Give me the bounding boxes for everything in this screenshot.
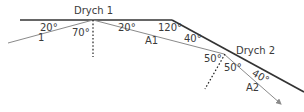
angle-normal-m2-out: 50° bbox=[224, 62, 242, 73]
angle-mirror-bend: 120° bbox=[158, 22, 182, 33]
angle-incident-m1: 20° bbox=[40, 22, 58, 33]
ray-1-label: 1 bbox=[38, 32, 44, 43]
ray-a1-label: A1 bbox=[145, 35, 158, 46]
angle-normal-m2-in: 50° bbox=[204, 53, 222, 64]
angle-normal-m1: 70° bbox=[72, 27, 90, 38]
angle-reflected-m1: 20° bbox=[118, 22, 136, 33]
ray-a2-label: A2 bbox=[246, 82, 259, 93]
reflection-diagram: Drych 1 Drych 2 1 A1 A2 20° 70° 20° 120°… bbox=[0, 0, 304, 112]
mirror-2-label: Drych 2 bbox=[236, 45, 275, 56]
mirror-2-line bbox=[172, 20, 304, 92]
angle-incident-m2: 40° bbox=[184, 33, 202, 44]
mirror-1-label: Drych 1 bbox=[74, 5, 113, 16]
